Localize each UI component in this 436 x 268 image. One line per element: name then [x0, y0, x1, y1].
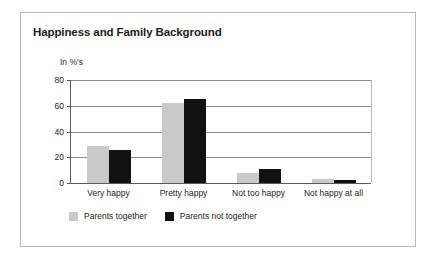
gridline: [71, 106, 371, 107]
legend-swatch-icon: [69, 212, 78, 221]
bar: [334, 180, 356, 183]
legend-label: Parents not together: [180, 211, 257, 221]
bar: [162, 103, 184, 183]
x-axis-category-label: Very happy: [87, 188, 130, 198]
y-tick-mark: [67, 157, 71, 158]
plot-area: 020406080Very happyPretty happyNot too h…: [70, 80, 372, 183]
x-axis-category-label: Not happy at all: [304, 188, 363, 198]
legend-label: Parents together: [84, 211, 147, 221]
gridline: [71, 80, 371, 81]
x-axis-category-label: Pretty happy: [160, 188, 208, 198]
y-tick-mark: [67, 80, 71, 81]
y-tick-label: 80: [55, 75, 64, 85]
gridline: [71, 132, 371, 133]
bar: [237, 173, 259, 183]
gridline: [71, 183, 371, 184]
chart-figure: Happiness and Family Background In %'s 0…: [20, 12, 416, 247]
y-tick-mark: [67, 106, 71, 107]
y-tick-label: 40: [55, 127, 64, 137]
legend-item-parents-not-together: Parents not together: [165, 211, 257, 221]
bar: [87, 146, 109, 183]
y-tick-label: 0: [59, 178, 64, 188]
y-axis-unit-label: In %'s: [60, 57, 83, 67]
bar: [184, 99, 206, 183]
chart-legend: Parents together Parents not together: [69, 211, 257, 221]
y-tick-label: 60: [55, 101, 64, 111]
y-tick-mark: [67, 132, 71, 133]
legend-item-parents-together: Parents together: [69, 211, 147, 221]
x-axis-category-label: Not too happy: [232, 188, 285, 198]
bar: [312, 179, 334, 183]
y-tick-mark: [67, 183, 71, 184]
bar: [259, 169, 281, 183]
y-tick-label: 20: [55, 152, 64, 162]
legend-swatch-icon: [165, 212, 174, 221]
bar: [109, 150, 131, 183]
